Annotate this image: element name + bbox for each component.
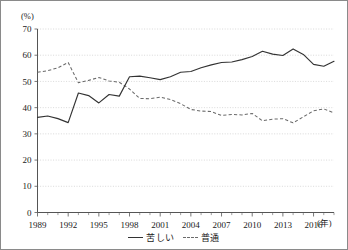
y-tick-label-10: 10 [23,181,33,191]
legend-label-futsuu: 普通 [201,231,219,244]
y-tick-label-70: 70 [23,24,33,34]
chart-page: 010203040506070 198919921995199820012004… [0,0,348,250]
legend-label-kurushii: 苦しい [146,231,174,244]
x-tick-label-2001: 2001 [151,220,169,230]
y-axis-unit-label: (%) [21,11,34,21]
series-line-kurushii [38,49,335,123]
legend-swatch-solid-icon [128,237,143,238]
gridlines-group [38,29,335,186]
y-tick-label-50: 50 [23,77,33,87]
y-tick-label-0: 0 [27,208,32,218]
line-chart-svg: 010203040506070 198919921995199820012004… [1,1,348,250]
legend-swatch-dashed-icon [183,237,198,238]
x-axis-unit-label: (年) [317,218,332,228]
x-tick-label-1995: 1995 [90,220,109,230]
x-tick-label-1998: 1998 [121,220,140,230]
x-tick-label-2004: 2004 [182,220,201,230]
legend-item-futsuu: 普通 [183,231,219,244]
y-tick-labels-group: 010203040506070 [23,24,33,218]
x-tick-label-2007: 2007 [213,220,232,230]
legend-item-kurushii: 苦しい [128,231,174,244]
x-tick-label-1992: 1992 [59,220,77,230]
x-tick-label-2010: 2010 [243,220,262,230]
y-tick-label-20: 20 [23,155,33,165]
y-tick-label-30: 30 [23,129,33,139]
x-tick-label-1989: 1989 [29,220,48,230]
y-tick-label-60: 60 [23,50,33,60]
x-tick-label-2013: 2013 [274,220,293,230]
x-tick-labels-group: 1989199219951998200120042007201020132016 [29,220,324,230]
x-tick-marks-group [38,213,335,217]
y-tick-label-40: 40 [23,103,33,113]
chart-legend: 苦しい 普通 [1,231,347,244]
chart-plot-area: 010203040506070 198919921995199820012004… [1,1,348,250]
